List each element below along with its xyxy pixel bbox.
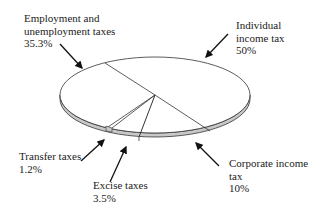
label-text: Excise taxes <box>93 179 148 192</box>
label-text: unemployment taxes <box>24 25 115 38</box>
label-value: 3.5% <box>93 192 148 205</box>
arrow-individual <box>206 34 228 57</box>
arrow-transfer <box>81 140 104 161</box>
label-text: Transfer taxes <box>19 150 81 163</box>
label-text: Individual <box>236 19 285 32</box>
arrow-corporate <box>196 143 219 166</box>
label-text: Corporate income <box>229 157 308 170</box>
label-value: 35.3% <box>24 37 115 50</box>
label-value: 1.2% <box>19 163 81 176</box>
label-employment: Employment and unemployment taxes 35.3% <box>24 12 115 50</box>
label-text: Employment and <box>24 12 115 25</box>
arrow-excise <box>110 147 126 182</box>
label-transfer: Transfer taxes 1.2% <box>19 150 81 175</box>
label-text: tax <box>229 170 308 183</box>
label-value: 10% <box>229 182 308 195</box>
label-individual: Individual income tax 50% <box>236 19 285 57</box>
label-corporate: Corporate income tax 10% <box>229 157 308 195</box>
label-excise: Excise taxes 3.5% <box>93 179 148 204</box>
label-text: income tax <box>236 32 285 45</box>
label-value: 50% <box>236 44 285 57</box>
